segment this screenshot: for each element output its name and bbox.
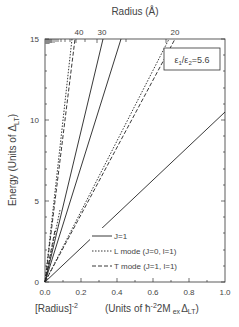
x-tick-0.4: 0.4 [111, 288, 123, 297]
y-axis-title: Energy (Units of ΔLT) [7, 114, 20, 206]
x-axis-title-right: (Units of ħ-22MexΔLT) [105, 302, 199, 315]
x-tick-0.8: 0.8 [183, 288, 195, 297]
x-axis-ticks [63, 278, 207, 282]
top-tick-40: 40 [75, 28, 84, 37]
chart-svg: Radius (Å) 40 30 20 0 5 10 15 0.0 0 [0, 0, 239, 327]
x-tick-0.2: 0.2 [75, 288, 87, 297]
y-tick-15: 15 [30, 35, 39, 44]
y-tick-5: 5 [35, 197, 40, 206]
legend-l-mode: L mode (J=0, l=1) [114, 247, 177, 256]
top-axis-ticks [46, 39, 166, 44]
legend-t-mode: T mode (J=1, l=1) [114, 262, 177, 271]
top-tick-30: 30 [98, 28, 107, 37]
x-tick-0: 0.0 [39, 288, 51, 297]
x-axis-title-left: [Radius]-2 [35, 302, 78, 314]
y-tick-0: 0 [35, 278, 40, 287]
legend-j1: J=1 [114, 232, 128, 241]
chart-figure: Radius (Å) 40 30 20 0 5 10 15 0.0 0 [0, 0, 239, 327]
top-tick-20: 20 [171, 28, 180, 37]
svg-text:Energy (Units of ΔLT): Energy (Units of ΔLT) [7, 114, 20, 206]
x-tick-0.6: 0.6 [147, 288, 159, 297]
top-axis-title: Radius (Å) [111, 5, 158, 17]
legend: J=1 L mode (J=0, l=1) T mode (J=1, l=1) [90, 228, 220, 276]
line-t-b [45, 39, 75, 282]
y-tick-10: 10 [30, 116, 39, 125]
x-tick-1.0: 1.0 [219, 288, 231, 297]
